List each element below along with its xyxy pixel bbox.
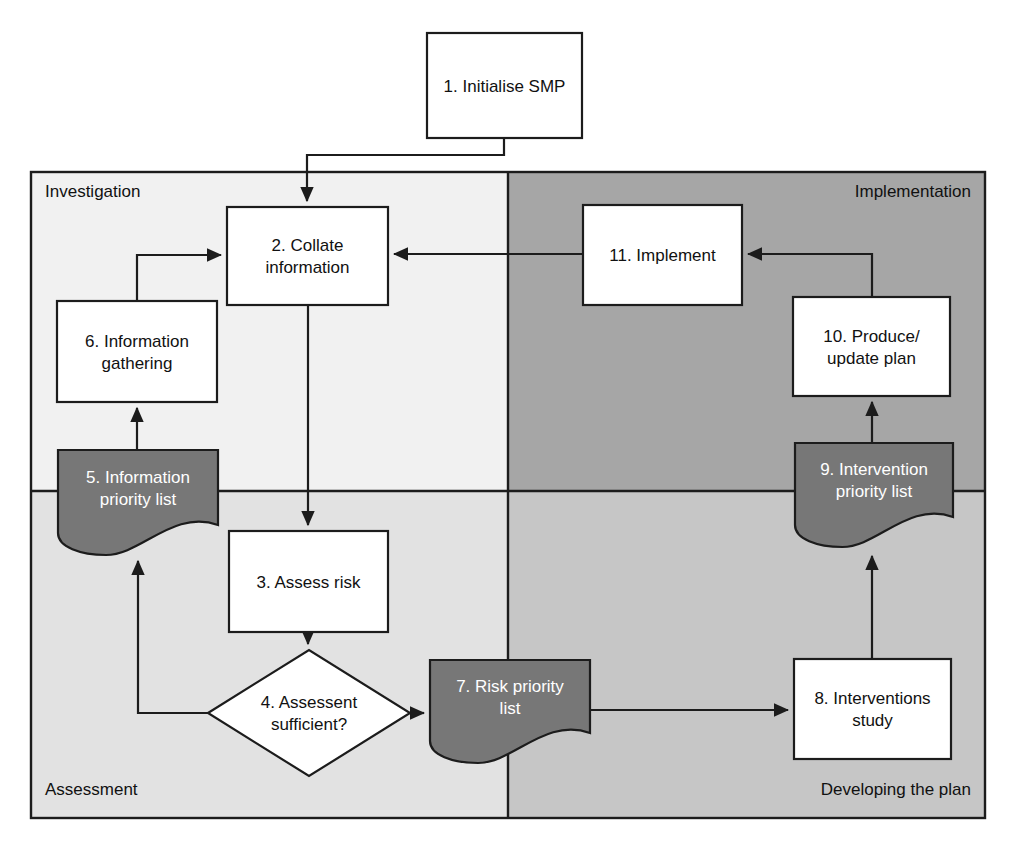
flowchart-canvas: 1. Initialise SMP2. Collateinformation3.… bbox=[0, 0, 1013, 858]
flowchart-page: 1. Initialise SMP2. Collateinformation3.… bbox=[0, 0, 1013, 858]
node-shape-box bbox=[57, 301, 217, 402]
node-shape-box bbox=[227, 207, 388, 305]
node-label-n2-line-2: information bbox=[265, 258, 349, 277]
node-label-n7-line-2: list bbox=[500, 699, 521, 718]
node-n3[interactable]: 3. Assess risk bbox=[229, 531, 388, 632]
node-n6[interactable]: 6. Informationgathering bbox=[57, 301, 217, 402]
node-label-n10-line-2: update plan bbox=[827, 349, 916, 368]
node-label-n10-line-1: 10. Produce/ bbox=[823, 327, 920, 346]
node-label-n1-line-1: 1. Initialise SMP bbox=[444, 77, 566, 96]
node-label-n11-line-1: 11. Implement bbox=[609, 246, 716, 265]
node-label-n5-line-1: 5. Information bbox=[86, 468, 190, 487]
node-label-n4-line-2: sufficient? bbox=[271, 715, 347, 734]
quadrant-label-investigation: Investigation bbox=[45, 182, 140, 201]
node-label-n9-line-2: priority list bbox=[836, 482, 913, 501]
node-label-n9-line-1: 9. Intervention bbox=[820, 460, 928, 479]
node-label-n2-line-1: 2. Collate bbox=[272, 236, 344, 255]
node-label-n8-line-1: 8. Interventions bbox=[814, 689, 930, 708]
node-n8[interactable]: 8. Interventionsstudy bbox=[794, 659, 951, 759]
node-label-n6-line-2: gathering bbox=[102, 354, 173, 373]
node-label-n6-line-1: 6. Information bbox=[85, 332, 189, 351]
node-label-n3-line-1: 3. Assess risk bbox=[257, 573, 361, 592]
node-label-n8-line-2: study bbox=[852, 711, 893, 730]
quadrant-developing_the_plan bbox=[508, 491, 985, 818]
node-n11[interactable]: 11. Implement bbox=[583, 205, 742, 305]
node-label-n5-line-2: priority list bbox=[100, 490, 177, 509]
node-shape-box bbox=[794, 659, 951, 759]
node-label-n7-line-1: 7. Risk priority bbox=[456, 677, 564, 696]
quadrant-label-implementation: Implementation bbox=[855, 182, 971, 201]
node-shape-box bbox=[793, 297, 950, 396]
node-n10[interactable]: 10. Produce/update plan bbox=[793, 297, 950, 396]
node-label-n4-line-1: 4. Assessent bbox=[261, 693, 358, 712]
quadrant-label-assessment: Assessment bbox=[45, 780, 138, 799]
node-n2[interactable]: 2. Collateinformation bbox=[227, 207, 388, 305]
node-n1[interactable]: 1. Initialise SMP bbox=[427, 33, 582, 138]
quadrant-label-developing_the_plan: Developing the plan bbox=[821, 780, 971, 799]
